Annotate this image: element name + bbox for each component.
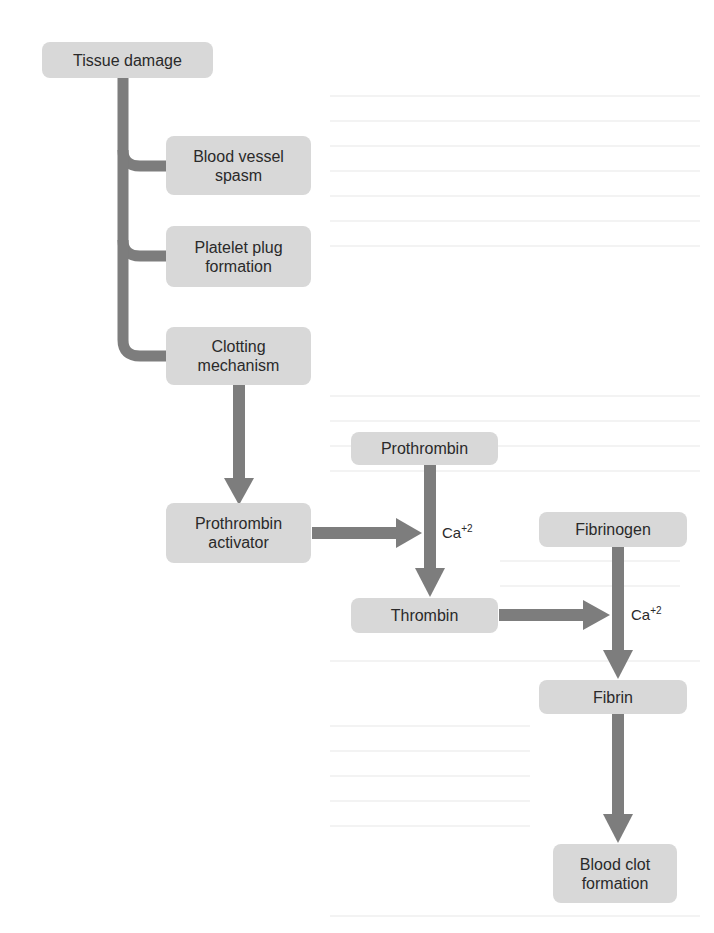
- calcium-charge: +2: [461, 523, 472, 534]
- node-prothrombin: Prothrombin: [351, 432, 498, 465]
- trunk-to-blood-vessel-spasm: [123, 78, 168, 166]
- node-blood-clot-formation: Blood clot formation: [553, 844, 677, 903]
- arrow-thrombin-to-conversion: [499, 600, 610, 630]
- calcium-symbol: Ca: [442, 524, 461, 541]
- branch-connectors: [123, 78, 168, 356]
- node-fibrin: Fibrin: [539, 680, 687, 714]
- node-clotting-mechanism: Clotting mechanism: [166, 327, 311, 385]
- arrow-activator-to-conversion: [312, 518, 422, 548]
- connector-layer: [0, 0, 714, 933]
- node-tissue-damage: Tissue damage: [42, 42, 213, 78]
- calcium-label-fibrin-step: Ca+2: [631, 605, 662, 623]
- calcium-charge: +2: [650, 605, 661, 616]
- node-blood-vessel-spasm: Blood vessel spasm: [166, 136, 311, 195]
- node-prothrombin-activator: Prothrombin activator: [166, 503, 311, 563]
- arrow-prothrombin-to-thrombin: [415, 465, 445, 597]
- arrow-fibrin-to-blood-clot: [603, 714, 633, 843]
- node-fibrinogen: Fibrinogen: [539, 512, 687, 547]
- calcium-label-thrombin-step: Ca+2: [442, 523, 473, 541]
- arrow-clotting-to-activator: [224, 385, 254, 505]
- calcium-symbol: Ca: [631, 606, 650, 623]
- node-thrombin: Thrombin: [351, 598, 498, 633]
- node-platelet-plug-formation: Platelet plug formation: [166, 226, 311, 287]
- arrow-fibrinogen-to-fibrin: [603, 547, 633, 679]
